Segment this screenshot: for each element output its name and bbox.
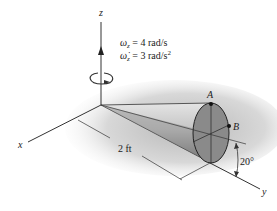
z-axis-label: z [98,7,103,18]
y-axis-label: y [261,186,267,197]
z-axis: z [98,7,104,105]
angle-label: 20° [240,156,254,167]
svg-text:A: A [206,89,214,100]
svg-text:B: B [233,121,239,132]
angular-acceleration: ω̇z = 3 rad/s2 [120,49,171,63]
x-axis-label: x [17,139,23,150]
angular-velocity: ωz = 4 rad/s [120,37,167,50]
cone-rotation-diagram: z ωz = 4 rad/s ω̇z = 3 rad/s2 x y A [0,0,277,211]
diagram-canvas: z ωz = 4 rad/s ω̇z = 3 rad/s2 x y A [0,0,277,211]
length-label: 2 ft [118,143,132,154]
